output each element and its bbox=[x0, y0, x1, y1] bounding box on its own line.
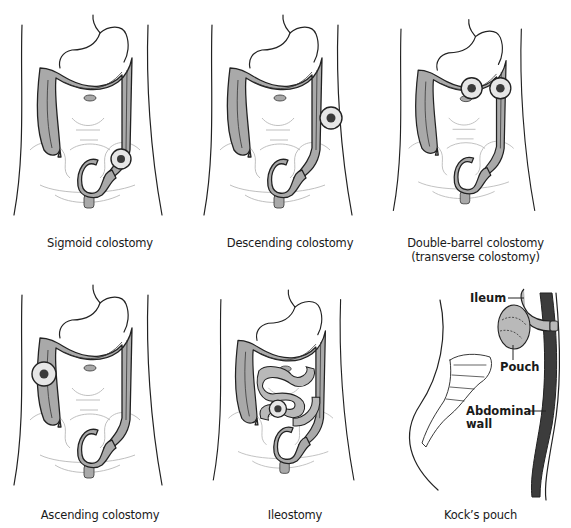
panel-kocks-pouch: Ileum Pouch Abdominal wall bbox=[390, 265, 571, 505]
double-barrel-colostomy-illustration bbox=[380, 0, 571, 230]
caption-ascending-colostomy: Ascending colostomy bbox=[10, 508, 190, 522]
caption-line: Descending colostomy bbox=[195, 236, 385, 250]
ileostomy-illustration bbox=[200, 265, 390, 505]
callout-line: wall bbox=[466, 418, 535, 431]
panel-sigmoid-colostomy bbox=[0, 0, 200, 230]
ascending-colostomy-illustration bbox=[0, 265, 200, 505]
caption-sigmoid-colostomy: Sigmoid colostomy bbox=[10, 236, 190, 250]
caption-line: Sigmoid colostomy bbox=[10, 236, 190, 250]
caption-line: Ascending colostomy bbox=[10, 508, 190, 522]
caption-kocks-pouch: Kock’s pouch bbox=[395, 508, 566, 522]
panel-ascending-colostomy bbox=[0, 265, 200, 505]
caption-ileostomy: Ileostomy bbox=[205, 508, 385, 522]
panel-double-barrel-colostomy bbox=[380, 0, 571, 230]
abdominal-wall-label: Abdominal wall bbox=[466, 405, 535, 431]
caption-descending-colostomy: Descending colostomy bbox=[195, 236, 385, 250]
caption-line: (transverse colostomy) bbox=[385, 250, 566, 264]
panel-descending-colostomy bbox=[190, 0, 390, 230]
caption-line: Kock’s pouch bbox=[395, 508, 566, 522]
caption-double-barrel-colostomy: Double-barrel colostomy (transverse colo… bbox=[385, 236, 566, 264]
descending-colostomy-illustration bbox=[190, 0, 390, 230]
ileum-label: Ileum bbox=[470, 292, 506, 305]
caption-line: Ileostomy bbox=[205, 508, 385, 522]
pouch-label: Pouch bbox=[500, 361, 540, 374]
panel-ileostomy bbox=[200, 265, 390, 505]
caption-line: Double-barrel colostomy bbox=[385, 236, 566, 250]
sigmoid-colostomy-illustration bbox=[0, 0, 200, 230]
